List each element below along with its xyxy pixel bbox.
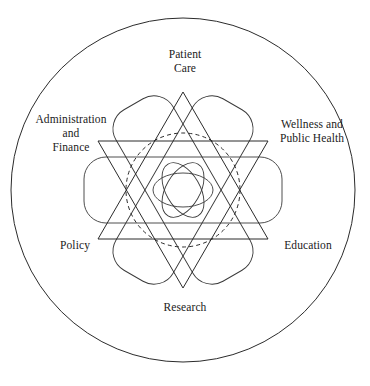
center-rosette-group <box>153 156 213 225</box>
label-policy: Policy <box>38 238 112 252</box>
label-wellness-and-public-health: Wellness and Public Health <box>258 117 366 145</box>
label-patient-care: Patient Care <box>139 47 231 75</box>
label-administration-and-finance: Administration and Finance <box>17 112 125 154</box>
label-education: Education <box>258 238 358 252</box>
diagram-canvas: Patient Care Wellness and Public Health … <box>0 0 370 386</box>
dashed-inner-circle <box>126 133 240 247</box>
capsule-horizontal <box>84 157 282 223</box>
center-ellipse-one-twenty-deg <box>153 156 212 225</box>
capsule-one-twenty-deg <box>105 88 261 292</box>
capsule-sixty-deg <box>105 88 261 292</box>
label-research: Research <box>139 300 231 314</box>
